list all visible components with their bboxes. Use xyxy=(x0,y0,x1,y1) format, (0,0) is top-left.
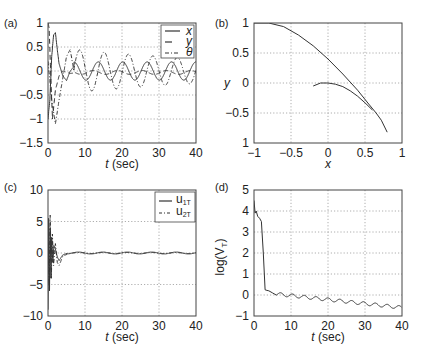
svg-text:0: 0 xyxy=(45,146,52,160)
svg-text:10: 10 xyxy=(30,183,44,197)
svg-text:0.5: 0.5 xyxy=(26,40,43,54)
panel-b: (b) −1−0.500.511−0.500.51 x y xyxy=(215,16,406,171)
svg-text:2: 2 xyxy=(242,246,249,260)
legend-c: u1T u2T xyxy=(155,192,195,222)
svg-text:−1: −1 xyxy=(247,146,261,160)
xlabel-c: t (sec) xyxy=(105,330,138,344)
panel-label-a: (a) xyxy=(4,17,17,29)
svg-text:−5: −5 xyxy=(29,278,43,292)
xlabel-b: x xyxy=(324,157,332,171)
svg-text:10: 10 xyxy=(78,146,92,160)
svg-text:40: 40 xyxy=(189,146,203,160)
svg-text:−1: −1 xyxy=(235,309,249,323)
svg-text:1: 1 xyxy=(242,267,249,281)
svg-text:40: 40 xyxy=(395,319,409,333)
svg-text:5: 5 xyxy=(242,183,249,197)
svg-text:−0.5: −0.5 xyxy=(225,106,249,120)
axes-b: −1−0.500.511−0.500.51 xyxy=(225,16,405,160)
panel-c: (c) 010203040−10−50510 t (sec) u1T u2T xyxy=(4,181,203,344)
panel-label-d: (d) xyxy=(215,181,228,193)
svg-text:3: 3 xyxy=(242,225,249,239)
svg-text:1: 1 xyxy=(36,16,43,30)
svg-text:0: 0 xyxy=(251,319,258,333)
figure: (a) 010203040−1.5−1−0.500.51 t (sec) x y… xyxy=(0,0,421,349)
svg-text:1: 1 xyxy=(242,16,249,30)
svg-text:0.5: 0.5 xyxy=(232,46,249,60)
ylabel-b: y xyxy=(223,76,231,90)
svg-text:0: 0 xyxy=(36,246,43,260)
series-trajectory-branch xyxy=(313,83,372,110)
svg-text:30: 30 xyxy=(358,319,372,333)
xlabel-d: t (sec) xyxy=(311,330,344,344)
panel-label-b: (b) xyxy=(215,17,228,29)
svg-text:0: 0 xyxy=(242,288,249,302)
series-trajectory xyxy=(254,23,387,132)
svg-text:10: 10 xyxy=(78,319,92,333)
svg-text:−10: −10 xyxy=(23,309,44,323)
svg-text:0.5: 0.5 xyxy=(357,146,374,160)
svg-text:30: 30 xyxy=(152,319,166,333)
svg-text:−0.5: −0.5 xyxy=(279,146,303,160)
svg-text:40: 40 xyxy=(189,319,203,333)
panel-label-c: (c) xyxy=(4,181,17,193)
svg-text:4: 4 xyxy=(242,204,249,218)
panel-a: (a) 010203040−1.5−1−0.500.51 t (sec) x y… xyxy=(4,16,203,171)
legend-a: x y θ xyxy=(161,24,194,59)
svg-text:30: 30 xyxy=(152,146,166,160)
svg-text:5: 5 xyxy=(36,215,43,229)
svg-text:−0.5: −0.5 xyxy=(19,88,43,102)
xlabel-a: t (sec) xyxy=(105,157,138,171)
svg-text:0: 0 xyxy=(45,319,52,333)
axes-d: 010203040−1012345 xyxy=(235,183,409,333)
svg-text:0: 0 xyxy=(36,64,43,78)
svg-text:0: 0 xyxy=(242,76,249,90)
svg-text:−1: −1 xyxy=(29,112,43,126)
svg-text:−1.5: −1.5 xyxy=(19,136,43,150)
svg-text:1: 1 xyxy=(242,136,249,150)
ylabel-d: log(VT) xyxy=(213,239,229,276)
svg-text:10: 10 xyxy=(284,319,298,333)
panel-d: (d) 010203040−1012345 t (sec) log(VT) xyxy=(213,181,409,344)
svg-text:1: 1 xyxy=(399,146,406,160)
svg-text:θ: θ xyxy=(186,45,193,59)
